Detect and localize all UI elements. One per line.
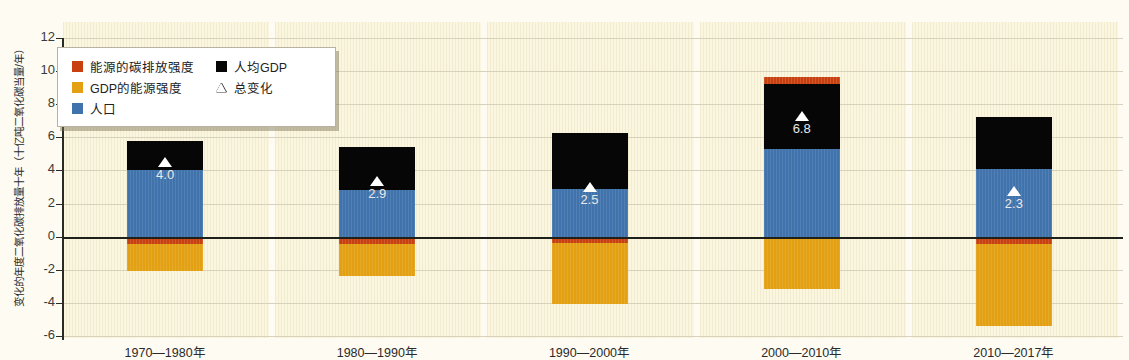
legend-label-energy-intensity: GDP的能源强度 [90, 78, 182, 97]
population-swatch-icon [72, 103, 83, 114]
bar-segment-energy[interactable] [764, 237, 840, 289]
legend: 能源的碳排放强度 GDP的能源强度 人口 人均GDP 总变化 [57, 47, 336, 127]
bar-segment-carbon[interactable] [764, 77, 840, 84]
co2-decomposition-chart: 变化的年度二氧化碳排放量十年（十亿吨二氧化碳当量/年） 121086420-2-… [0, 0, 1129, 360]
y-tick-label-0: 0 [15, 228, 55, 243]
total-change-triangle-icon [216, 82, 227, 93]
bar-group[interactable] [976, 22, 1052, 338]
x-axis-label-4: 2000—2010年 [699, 342, 905, 360]
legend-item-population[interactable]: 人口 [72, 98, 194, 119]
triangle-icon [158, 157, 172, 167]
net-change-marker: 4.0 [135, 157, 195, 181]
x-axis-label-3: 1990—2000年 [486, 342, 692, 360]
legend-item-carbon-intensity[interactable]: 能源的碳排放强度 [72, 56, 194, 77]
bar-group[interactable] [552, 22, 628, 338]
legend-label-carbon-intensity: 能源的碳排放强度 [90, 57, 194, 76]
y-tick-label-8: 8 [15, 95, 55, 110]
bar-segment-pop[interactable] [764, 149, 840, 237]
legend-column-right: 人均GDP 总变化 [216, 56, 287, 98]
zero-baseline [62, 237, 1123, 239]
bar-segment-energy[interactable] [976, 244, 1052, 326]
triangle-icon [583, 182, 597, 192]
x-axis-label-5: 2010—2017年 [911, 342, 1117, 360]
x-axis-label-2: 1980—1990年 [274, 342, 480, 360]
gdp-swatch-icon [216, 61, 227, 72]
bar-segment-energy[interactable] [127, 244, 203, 270]
triangle-icon [1007, 186, 1021, 196]
net-change-value: 6.8 [772, 122, 832, 135]
energy-swatch-icon [72, 82, 83, 93]
x-axis-label-1: 1970—1980年 [62, 342, 268, 360]
legend-item-energy-intensity[interactable]: GDP的能源强度 [72, 77, 194, 98]
legend-item-gdp-per-capita[interactable]: 人均GDP [216, 56, 287, 77]
legend-label-total-change: 总变化 [234, 78, 273, 97]
triangle-icon [370, 176, 384, 186]
bar-segment-gdp[interactable] [976, 117, 1052, 168]
bar-segment-gdp[interactable] [552, 133, 628, 188]
y-tick-label-6: 6 [15, 128, 55, 143]
net-change-value: 2.3 [984, 197, 1044, 210]
carbon-swatch-icon [72, 61, 83, 72]
legend-label-gdp-per-capita: 人均GDP [234, 57, 287, 76]
y-tick-label--2: -2 [15, 261, 55, 276]
y-tick-label--4: -4 [15, 294, 55, 309]
net-change-value: 4.0 [135, 168, 195, 181]
bar-group[interactable] [764, 22, 840, 338]
legend-label-population: 人口 [90, 99, 116, 118]
y-tick-label-2: 2 [15, 195, 55, 210]
triangle-icon [795, 111, 809, 121]
bar-segment-energy[interactable] [339, 244, 415, 276]
legend-item-total-change[interactable]: 总变化 [216, 77, 287, 98]
y-tick-label-10: 10 [15, 62, 55, 77]
bar-segment-energy[interactable] [552, 243, 628, 303]
net-change-marker: 2.3 [984, 186, 1044, 210]
net-change-marker: 2.9 [347, 176, 407, 200]
y-tick-label--6: -6 [15, 327, 55, 342]
net-change-marker: 2.5 [560, 182, 620, 206]
y-tick-label-12: 12 [15, 29, 55, 44]
y-tick-label-4: 4 [15, 161, 55, 176]
net-change-marker: 6.8 [772, 111, 832, 135]
legend-column-left: 能源的碳排放强度 GDP的能源强度 人口 [72, 56, 194, 119]
net-change-value: 2.9 [347, 187, 407, 200]
net-change-value: 2.5 [560, 193, 620, 206]
